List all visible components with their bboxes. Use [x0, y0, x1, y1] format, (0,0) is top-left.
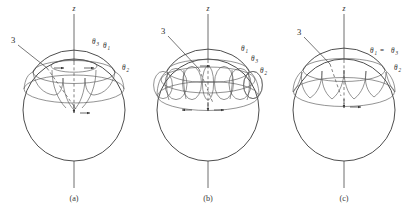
- svg-text:θ: θ: [103, 42, 107, 50]
- pointer-label-c: 3: [297, 27, 301, 37]
- z-axis-label-a: z: [72, 4, 76, 13]
- equality-sign-c: =: [380, 47, 384, 55]
- svg-text:θ: θ: [370, 47, 374, 55]
- cell-dividers-b: [167, 70, 250, 100]
- panel-a: z 3 θ 3 θ: [11, 4, 130, 203]
- svg-text:θ: θ: [260, 67, 264, 75]
- theta-1-label-a: θ 1: [103, 42, 110, 51]
- pointer-label-b: 3: [161, 26, 165, 36]
- band-wall-right-b: [249, 71, 259, 96]
- svg-text:2: 2: [399, 67, 402, 73]
- three-panel-sphere-diagram: z 3 θ 3 θ: [0, 0, 418, 210]
- z-axis-label-c: z: [342, 4, 346, 13]
- svg-text:2: 2: [127, 67, 130, 73]
- band-wall-left-b: [157, 71, 167, 96]
- theta-2-label-c: θ 2: [394, 64, 402, 73]
- caption-b: (b): [203, 194, 213, 203]
- svg-text:θ: θ: [92, 38, 96, 46]
- svg-text:θ: θ: [394, 64, 398, 72]
- svg-text:2: 2: [265, 70, 268, 76]
- svg-text:θ: θ: [251, 55, 255, 63]
- panel-c: z 3 θ 1 = θ 3: [293, 4, 402, 203]
- theta-2-label-a: θ 2: [122, 64, 130, 73]
- pointer-label-a: 3: [11, 35, 15, 45]
- leader-line-c: [304, 37, 330, 64]
- svg-text:θ: θ: [122, 64, 126, 72]
- svg-text:3: 3: [396, 50, 399, 56]
- caption-a: (a): [69, 194, 78, 203]
- svg-text:1: 1: [375, 50, 378, 56]
- leader-dashed-c: [330, 64, 341, 96]
- svg-text:3: 3: [256, 58, 259, 64]
- leader-line-a: [18, 45, 47, 68]
- theta-1-label-b: θ 1: [241, 45, 248, 54]
- svg-text:θ: θ: [241, 45, 245, 53]
- theta-3-label-a: θ 3: [92, 38, 100, 47]
- theta-2-label-b: θ 2: [260, 67, 268, 76]
- svg-text:1: 1: [246, 48, 249, 54]
- cusp-right-inner-a: [74, 78, 85, 110]
- figure-container: z 3 θ 3 θ: [0, 0, 418, 210]
- svg-text:θ: θ: [391, 47, 395, 55]
- cusp-left-inner-a: [63, 78, 74, 110]
- svg-text:1: 1: [108, 45, 111, 51]
- theta-3-label-b: θ 3: [251, 55, 259, 64]
- caption-c: (c): [339, 194, 348, 203]
- svg-text:3: 3: [97, 41, 100, 47]
- panel-b: z: [154, 4, 268, 203]
- theta1-equals-theta3-label-c: θ 1 = θ 3: [370, 47, 399, 56]
- z-axis-label-b: z: [206, 4, 210, 13]
